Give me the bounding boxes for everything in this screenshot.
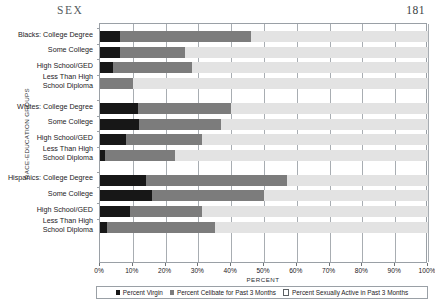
y-axis-label: Less Than High School Diploma xyxy=(0,217,93,234)
bar-segment-virgin xyxy=(100,31,120,42)
row-tick xyxy=(97,116,100,117)
legend-item[interactable]: Percent Virgin xyxy=(116,289,163,296)
bar-segment-virgin xyxy=(100,62,113,73)
bar-segment-virgin xyxy=(100,47,120,58)
running-title: SEX xyxy=(57,4,84,16)
x-tick-label: 90% xyxy=(388,267,401,274)
row-tick xyxy=(97,100,100,101)
y-axis-label: High School/GED xyxy=(0,206,93,214)
legend-label: Percent Celibate for Past 3 Months xyxy=(177,289,276,296)
row-tick xyxy=(97,147,100,148)
stacked-bar xyxy=(100,62,428,73)
row-tick xyxy=(97,28,100,29)
bar-segment-celibate xyxy=(139,119,221,130)
figure-stacked-bar-chart: RACE-EDUCATION GROUPS Blacks: College De… xyxy=(0,18,433,295)
bar-segment-celibate xyxy=(146,175,287,186)
x-axis-ticks: 0%10%20%30%40%50%60%70%80%90%100% xyxy=(99,263,427,275)
x-tick-label: 70% xyxy=(322,267,335,274)
row-tick xyxy=(97,44,100,45)
plot-area xyxy=(99,23,427,263)
bar-segment-active xyxy=(215,222,428,233)
stacked-bar xyxy=(100,78,428,89)
bar-segment-celibate xyxy=(152,190,264,201)
x-tick-mark xyxy=(296,263,297,266)
y-axis-label: High School/GED xyxy=(0,134,93,142)
x-tick-label: 30% xyxy=(191,267,204,274)
legend-item[interactable]: Percent Sexually Active in Past 3 Months xyxy=(283,289,408,296)
x-tick-mark xyxy=(99,263,100,266)
legend-swatch-virgin-icon xyxy=(116,290,121,295)
bar-row xyxy=(100,219,426,239)
y-axis-label: Some College xyxy=(0,190,93,198)
bar-segment-celibate xyxy=(113,62,192,73)
x-tick-label: 10% xyxy=(125,267,138,274)
y-axis-label: Hispanics: College Degree xyxy=(0,174,93,182)
row-tick xyxy=(97,203,100,204)
row-tick xyxy=(97,219,100,220)
chart-legend: Percent VirginPercent Celibate for Past … xyxy=(96,286,428,299)
bar-segment-active xyxy=(287,175,428,186)
bar-segment-active xyxy=(231,103,428,114)
bar-segment-virgin xyxy=(100,175,146,186)
stacked-bar xyxy=(100,175,428,186)
x-tick-mark xyxy=(132,263,133,266)
bar-segment-active xyxy=(192,62,428,73)
x-tick-label: 50% xyxy=(256,267,269,274)
row-tick xyxy=(97,131,100,132)
y-axis-label: Less Than High School Diploma xyxy=(0,73,93,90)
bar-segment-active xyxy=(175,150,428,161)
bar-segment-virgin xyxy=(100,190,152,201)
legend-label: Percent Virgin xyxy=(123,289,163,296)
bar-segment-celibate xyxy=(105,150,176,161)
x-tick-mark xyxy=(197,263,198,266)
bar-segment-virgin xyxy=(100,103,138,114)
stacked-bar xyxy=(100,206,428,217)
bar-segment-active xyxy=(221,119,428,130)
bar-segment-active xyxy=(185,47,428,58)
stacked-bar xyxy=(100,119,428,130)
y-axis-label: Whites: College Degree xyxy=(0,103,93,111)
row-tick xyxy=(97,172,100,173)
stacked-bar xyxy=(100,222,428,233)
bar-row xyxy=(100,147,426,167)
bar-segment-active xyxy=(251,31,428,42)
bar-segment-celibate xyxy=(138,103,231,114)
x-tick-mark xyxy=(165,263,166,266)
bar-row xyxy=(100,75,426,95)
y-axis-label: Some College xyxy=(0,46,93,54)
legend-swatch-celibate-icon xyxy=(170,290,175,295)
stacked-bar xyxy=(100,134,428,145)
stacked-bar xyxy=(100,103,428,114)
bar-segment-virgin xyxy=(100,134,126,145)
x-tick-mark xyxy=(394,263,395,266)
row-tick xyxy=(97,75,100,76)
x-tick-label: 60% xyxy=(289,267,302,274)
bar-segment-active xyxy=(202,134,428,145)
stacked-bar xyxy=(100,190,428,201)
x-tick-label: 40% xyxy=(224,267,237,274)
x-tick-mark xyxy=(361,263,362,266)
bar-rows xyxy=(100,24,426,262)
stacked-bar xyxy=(100,31,428,42)
bar-segment-celibate xyxy=(130,206,202,217)
x-tick-label: 80% xyxy=(355,267,368,274)
bar-segment-celibate xyxy=(120,47,186,58)
bar-segment-celibate xyxy=(126,134,201,145)
x-tick-label: 100% xyxy=(419,267,435,274)
bar-segment-virgin xyxy=(100,206,130,217)
bar-segment-active xyxy=(202,206,428,217)
stacked-bar xyxy=(100,47,428,58)
bar-segment-active xyxy=(264,190,428,201)
legend-label: Percent Sexually Active in Past 3 Months xyxy=(292,289,408,296)
page-number: 181 xyxy=(406,4,425,16)
y-axis-label: Blacks: College Degree xyxy=(0,31,93,39)
legend-item[interactable]: Percent Celibate for Past 3 Months xyxy=(170,289,276,296)
y-axis-label: High School/GED xyxy=(0,62,93,70)
x-axis-title: PERCENT xyxy=(99,276,427,283)
legend-swatch-active-icon xyxy=(283,289,290,296)
y-axis-category-labels: Blacks: College DegreeSome CollegeHigh S… xyxy=(0,23,96,263)
x-tick-mark xyxy=(263,263,264,266)
y-axis-label: Less Than High School Diploma xyxy=(0,145,93,162)
bar-segment-virgin xyxy=(100,119,139,130)
x-tick-mark xyxy=(427,263,428,266)
